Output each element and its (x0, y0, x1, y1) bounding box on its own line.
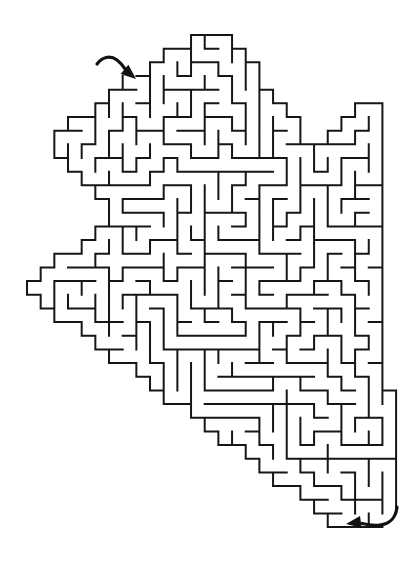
maze-walls (27, 35, 396, 527)
maze-exit-arrow (362, 507, 397, 525)
maze-entrance-arrow (97, 57, 126, 69)
maze-svg (0, 0, 417, 567)
maze-exit-arrow-head-icon (346, 516, 362, 528)
maze-page (0, 0, 417, 567)
